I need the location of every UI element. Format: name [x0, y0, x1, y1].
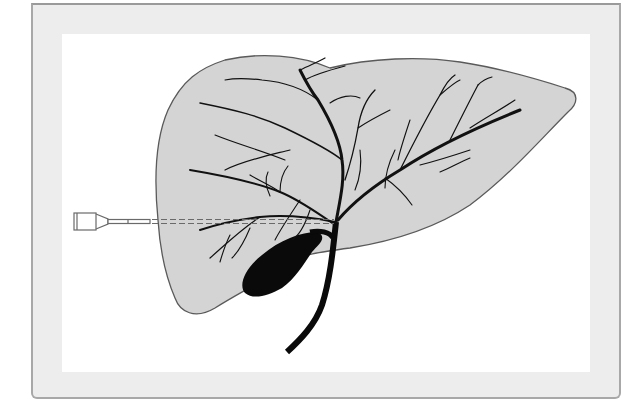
- needle-icon: [74, 213, 150, 230]
- liver-icon: [156, 56, 576, 314]
- liver-illustration: [0, 0, 636, 414]
